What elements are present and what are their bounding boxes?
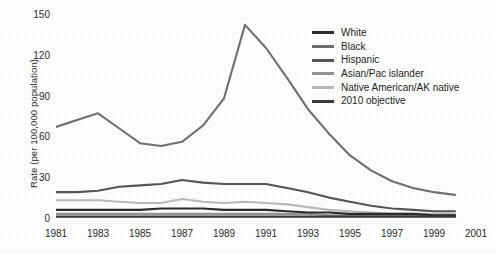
x-tick-label: 1981	[45, 228, 67, 239]
legend-swatch-icon	[312, 72, 334, 75]
legend-label: White	[341, 27, 367, 39]
x-tick-label: 1999	[423, 228, 445, 239]
x-tick-label: 1989	[213, 228, 235, 239]
legend-item: Asian/Pac islander	[312, 68, 459, 80]
x-tick-label: 1993	[297, 228, 319, 239]
chart-figure: Rate (per 100,000 population) 0306090120…	[0, 0, 496, 254]
series-line	[56, 180, 455, 211]
legend-swatch-icon	[312, 59, 334, 62]
y-tick-label: 60	[39, 131, 50, 142]
legend-swatch-icon	[312, 100, 334, 103]
y-tick-label: 0	[44, 213, 50, 224]
legend-label: Hispanic	[341, 54, 379, 66]
legend-item: White	[312, 27, 459, 39]
legend-swatch-icon	[312, 31, 334, 34]
y-tick-label: 30	[39, 172, 50, 183]
legend-label: Native American/AK native	[341, 82, 459, 94]
x-tick-label: 2001	[465, 228, 487, 239]
y-axis-tick-labels: 0306090120150	[22, 0, 50, 254]
y-tick-label: 150	[33, 9, 50, 20]
legend-item: 2010 objective	[312, 95, 459, 107]
legend-label: 2010 objective	[341, 95, 406, 107]
x-tick-label: 1995	[339, 228, 361, 239]
legend-swatch-icon	[312, 86, 334, 89]
legend-item: Black	[312, 41, 459, 53]
x-tick-label: 1991	[255, 228, 277, 239]
chart-legend: WhiteBlackHispanicAsian/Pac islanderNati…	[312, 27, 459, 107]
x-tick-label: 1997	[381, 228, 403, 239]
x-tick-label: 1985	[129, 228, 151, 239]
y-tick-label: 90	[39, 90, 50, 101]
x-tick-label: 1983	[87, 228, 109, 239]
legend-label: Asian/Pac islander	[341, 68, 424, 80]
series-line	[56, 199, 455, 214]
legend-item: Native American/AK native	[312, 82, 459, 94]
x-tick-label: 1987	[171, 228, 193, 239]
legend-item: Hispanic	[312, 54, 459, 66]
legend-swatch-icon	[312, 45, 334, 48]
y-tick-label: 120	[33, 49, 50, 60]
legend-label: Black	[341, 41, 365, 53]
